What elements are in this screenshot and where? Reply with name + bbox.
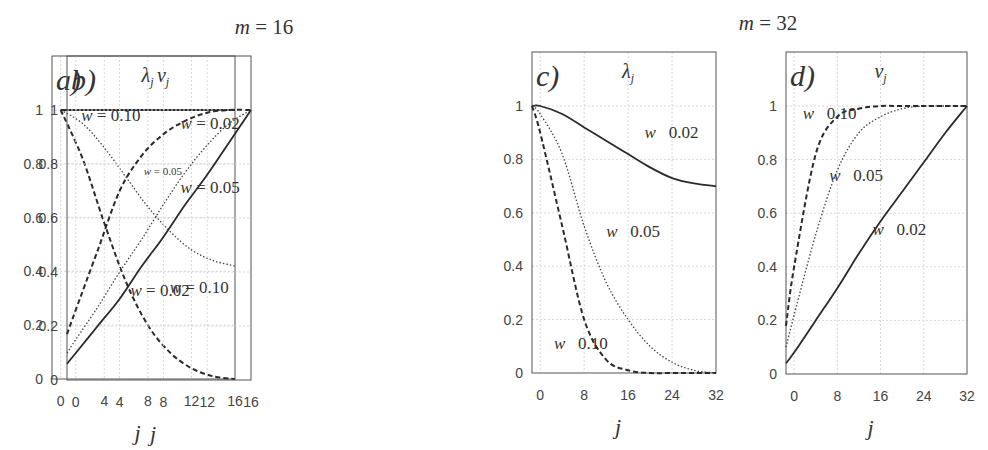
x-tick-label: 12 [184,393,200,409]
x-tick-label: 8 [159,394,167,410]
x-tick-label: 0 [72,394,80,410]
x-tick-label: 24 [916,388,932,404]
x-tick-label: 24 [664,387,680,403]
x-tick-label: 16 [620,387,636,403]
x-axis-label: j [131,420,140,445]
x-tick-label: 4 [116,394,124,410]
series-annotation: w = 0.05 [144,165,183,177]
chart-canvas: m = 16m = 3200.20.40.60.810481216ja)λjw … [0,0,988,450]
series-annotation: w 0.02 [645,123,699,142]
y-tick-label: 0.8 [758,152,778,168]
series-annotation: w = 0.02 [131,281,190,300]
y-tick-label: 1 [769,98,777,114]
x-tick-label: 16 [873,388,889,404]
series-line-solid [532,105,716,186]
x-tick-label: 8 [144,393,152,409]
y-tick-label: 0.4 [504,258,524,274]
x-axis-label: j [612,414,621,439]
panel-title: λj [621,60,635,85]
y-tick-label: 0.2 [758,312,778,328]
x-tick-label: 0 [790,388,798,404]
x-tick-label: 16 [243,394,259,410]
panel-title: νj [874,60,887,85]
x-axis-label: j [147,421,156,446]
x-tick-label: 8 [580,387,588,403]
series-annotation: w = 0.10 [81,106,140,125]
y-tick-label: 0 [50,372,58,388]
x-tick-label: 0 [57,393,65,409]
panel-d: 00.20.40.60.8108162432jd)νjw 0.10w 0.05w… [758,52,975,440]
x-tick-label: 12 [199,394,215,410]
y-tick-label: 0 [769,366,777,382]
series-annotation: w 0.05 [606,222,660,241]
y-tick-label: 0.4 [39,264,59,280]
series-line-dashed [67,110,251,334]
y-tick-label: 1 [35,102,43,118]
panel-title: λj [140,64,154,89]
series-annotation: w 0.10 [803,104,857,123]
y-tick-label: 0.6 [39,210,59,226]
x-tick-label: 32 [959,388,975,404]
series-line-dotted [67,110,251,353]
panel-letter: b) [71,63,96,97]
panel-letter: d) [790,59,815,93]
series-annotation: w 0.05 [829,166,883,185]
group-label: m = 16 [235,15,294,39]
series-annotation: w 0.02 [872,220,926,239]
y-tick-label: 0.2 [504,312,524,328]
x-tick-label: 0 [536,387,544,403]
x-tick-label: 16 [227,393,243,409]
x-tick-label: 4 [100,393,108,409]
y-tick-label: 0.6 [504,205,524,221]
y-tick-label: 1 [50,102,58,118]
series-annotation: w = 0.05 [181,178,240,197]
panel-letter: c) [536,59,559,93]
y-tick-label: 0 [515,365,523,381]
panel-c: 00.20.40.60.8108162432jc)λjw 0.02w 0.05w… [504,52,724,439]
y-tick-label: 0 [35,371,43,387]
y-tick-label: 0.8 [39,156,59,172]
y-tick-label: 0.2 [39,318,59,334]
y-tick-label: 0.8 [504,151,524,167]
panel-title: νj [157,64,170,89]
series-annotation: w 0.10 [554,334,608,353]
y-tick-label: 0.6 [758,205,778,221]
group-label: m = 32 [739,11,798,35]
x-tick-label: 32 [708,387,724,403]
x-tick-label: 8 [833,388,841,404]
x-axis-label: j [864,415,873,440]
series-annotation: w = 0.02 [181,114,240,133]
y-tick-label: 1 [515,98,523,114]
y-tick-label: 0.4 [758,259,778,275]
